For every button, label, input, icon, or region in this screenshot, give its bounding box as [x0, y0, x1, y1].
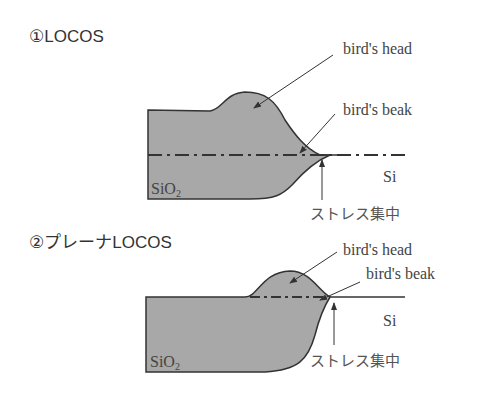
head-arrow — [254, 55, 333, 108]
locos-section: ①LOCOS bird's head bird's beak Si SiO2 ス… — [29, 27, 412, 223]
bird-beak-label-planar: bird's beak — [366, 265, 435, 282]
locos-diagram: ①LOCOS bird's head bird's beak Si SiO2 ス… — [0, 0, 483, 399]
planar-locos-section: ②プレーナLOCOS bird's head bird's beak Si Si… — [29, 233, 435, 372]
bird-head-label: bird's head — [343, 40, 412, 57]
stress-label: ストレス集中 — [310, 205, 400, 223]
locos-title: ①LOCOS — [29, 27, 104, 46]
planar-locos-title: ②プレーナLOCOS — [29, 233, 172, 252]
si-label: Si — [383, 168, 397, 185]
bird-beak-label: bird's beak — [343, 101, 412, 118]
stress-label-planar: ストレス集中 — [310, 352, 400, 370]
head-arrow-planar — [290, 252, 337, 283]
bird-head-label-planar: bird's head — [343, 241, 412, 258]
si-label-planar: Si — [383, 312, 397, 329]
beak-arrow — [300, 114, 335, 153]
